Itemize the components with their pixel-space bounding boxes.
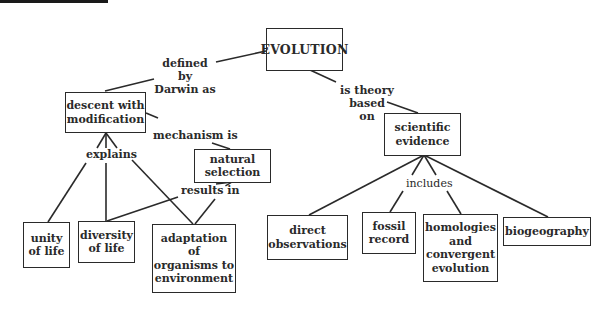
node-descent-with-modification: descent with modification: [65, 92, 146, 133]
node-homologies: homologies and convergent evolution: [423, 214, 498, 282]
node-homologies-text: homologies and convergent evolution: [425, 221, 496, 275]
node-direct-observations: direct observations: [267, 215, 348, 260]
node-direct-observations-text: direct observations: [268, 224, 346, 251]
link-label-defined-by: defined by Darwin as: [154, 57, 216, 96]
node-unity-text: unity of life: [29, 232, 65, 259]
node-diversity-of-life: diversity of life: [78, 221, 135, 263]
node-natural-selection: natural selection: [194, 149, 271, 183]
node-descent-text: descent with modification: [66, 99, 144, 126]
node-adaptation: adaptation of organisms to environment: [152, 224, 236, 293]
node-evolution: EVOLUTION: [266, 28, 343, 71]
node-adaptation-text: adaptation of organisms to environment: [153, 232, 235, 286]
link-label-includes: includes: [406, 177, 453, 190]
link-label-mechanism: mechanism is: [153, 129, 238, 142]
node-biogeography-text: biogeography: [505, 225, 589, 239]
node-diversity-text: diversity of life: [80, 229, 133, 256]
node-unity-of-life: unity of life: [23, 222, 70, 268]
link-label-results-in: results in: [181, 184, 239, 197]
node-fossil-record: fossil record: [362, 212, 416, 254]
node-scientific-evidence-text: scientific evidence: [394, 121, 450, 148]
node-fossil-record-text: fossil record: [369, 220, 409, 247]
link-label-explains: explains: [86, 148, 137, 161]
link-label-theory-based: is theory based on: [326, 84, 408, 123]
node-natural-selection-text: natural selection: [205, 153, 261, 180]
node-evolution-text: EVOLUTION: [260, 43, 348, 57]
node-biogeography: biogeography: [503, 217, 591, 246]
